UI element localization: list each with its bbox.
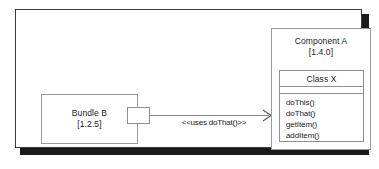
bundle-b-name: Bundle B (72, 108, 107, 119)
bundle-b-version: [1.2.5] (77, 119, 101, 130)
component-a-name: Component A (272, 36, 370, 47)
class-x-box[interactable]: Class X doThis() doThat() getItem() addI… (279, 70, 364, 142)
class-x-operations-compartment: doThis() doThat() getItem() addItem() (280, 94, 363, 141)
system-frame: Bundle B [1.2.5] <<uses doThat()>> Compo… (15, 9, 362, 148)
dependency-connector-line (150, 115, 269, 116)
class-x-operation: doThis() (286, 97, 363, 108)
class-x-name-compartment: Class X (280, 71, 363, 87)
component-a-box[interactable]: Component A [1.4.0] Class X doThis() doT… (271, 28, 371, 150)
class-x-name: Class X (307, 74, 337, 84)
class-x-operation: addItem() (286, 130, 363, 141)
class-x-attributes-compartment (280, 87, 363, 94)
diagram-canvas: Bundle B [1.2.5] <<uses doThat()>> Compo… (0, 0, 379, 169)
bundle-b-box[interactable]: Bundle B [1.2.5] (41, 94, 138, 144)
dependency-stereotype-label: <<uses doThat()>> (156, 118, 272, 127)
class-x-operation: getItem() (286, 119, 363, 130)
required-interface-port-icon[interactable] (127, 107, 150, 124)
class-x-operation: doThat() (286, 108, 363, 119)
component-a-version: [1.4.0] (272, 47, 370, 58)
